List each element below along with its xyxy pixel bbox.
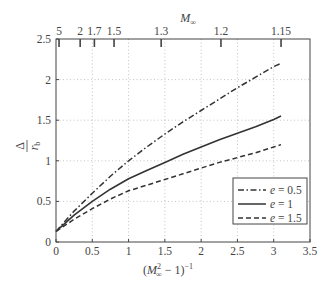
top-axis-title: M∞: [179, 11, 196, 27]
top-tick-label: 1.2: [214, 25, 229, 37]
line-chart: 521.71.51.31.21.15 00.511.522.533.5 00.5…: [0, 0, 332, 284]
x-tick-label: 1: [126, 245, 132, 257]
x-tick-label: 2: [198, 245, 204, 257]
legend-label: e = 1: [270, 198, 293, 210]
x-tick-label: 0.5: [85, 245, 100, 257]
y-tick-label: 0: [45, 236, 51, 248]
y-axis-title: Δrb: [13, 140, 42, 152]
x-tick-label: 1.5: [158, 245, 173, 257]
top-axis-ticks: 521.71.51.31.21.15: [56, 25, 291, 47]
top-tick-label: 1.5: [107, 25, 122, 37]
top-tick-label: 5: [56, 25, 62, 37]
y-tick-label: 1: [45, 155, 51, 167]
y-tick-label: 2.5: [37, 33, 52, 45]
x-tick-label: 2.5: [230, 245, 245, 257]
x-tick-label: 0: [53, 245, 59, 257]
svg-text:Δ: Δ: [13, 142, 27, 150]
legend-label: e = 0.5: [270, 184, 302, 196]
svg-text:rb: rb: [27, 142, 42, 151]
top-tick-label: 2: [77, 25, 83, 37]
y-tick-label: 1.5: [37, 114, 52, 126]
y-tick-label: 2: [45, 74, 51, 86]
top-tick-label: 1.15: [271, 25, 291, 37]
legend: e = 0.5e = 1e = 1.5: [233, 178, 307, 224]
x-tick-label: 3.5: [303, 245, 318, 257]
x-tick-label: 3: [271, 245, 277, 257]
y-tick-label: 0.5: [37, 195, 52, 207]
top-tick-label: 1.3: [154, 25, 169, 37]
x-axis-title: (M2∞ − 1)−1: [143, 262, 193, 279]
top-tick-label: 1.7: [87, 25, 102, 37]
legend-label: e = 1.5: [270, 212, 302, 224]
